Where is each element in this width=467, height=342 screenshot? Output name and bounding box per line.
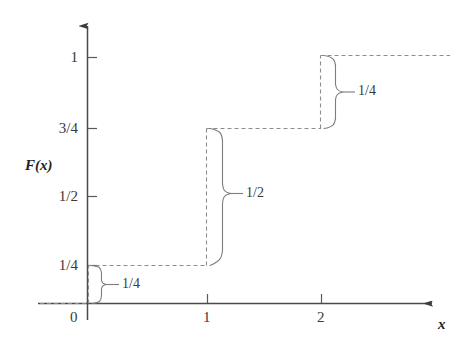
- jump-brace-0: [92, 266, 107, 304]
- jump-label-0: 1/4: [122, 277, 140, 291]
- y-tick-label-3-4: 3/4: [34, 121, 78, 136]
- origin-label: 0: [70, 310, 78, 325]
- y-tick-label-1-4: 1/4: [34, 258, 78, 273]
- x-axis-label: x: [438, 317, 446, 332]
- x-tick-label-1: 1: [203, 310, 211, 325]
- y-tick-label-1-2: 1/2: [34, 189, 78, 204]
- jump-label-1: 1/2: [246, 186, 264, 200]
- cdf-step-chart: 1 3/4 1/2 1/4 1 2 0 F(x) x 1/4 1/2 1/4: [0, 0, 467, 342]
- jump-brace-2: [324, 56, 343, 129]
- jump-label-2: 1/4: [358, 84, 376, 98]
- jump-brace-1: [210, 129, 231, 266]
- y-tick-label-1: 1: [46, 50, 78, 65]
- y-axis-label: F(x): [25, 158, 53, 173]
- x-tick-label-2: 2: [317, 310, 325, 325]
